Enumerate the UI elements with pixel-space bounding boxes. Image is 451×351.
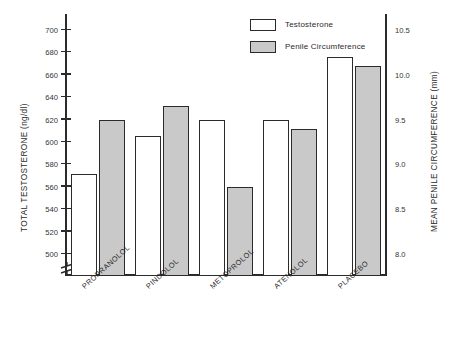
y-axis-left-line [65,14,67,276]
y-tick-label-left: 580 [45,160,58,169]
y-tick-label-left: 560 [45,182,58,191]
y-tick-left [61,230,71,231]
y-tick-label-right: 8.5 [395,205,406,214]
y-tick-label-left: 680 [45,48,58,57]
y-tick-label-left: 600 [45,138,58,147]
y-tick-left [61,118,71,119]
y-tick-left [61,73,71,74]
y-tick-label-right: 10.0 [395,70,410,79]
bar-penile-circumference [355,66,381,276]
y-tick-left [61,96,71,97]
y-axis-right-line [385,14,387,276]
y-tick-label-right: 9.5 [395,115,406,124]
y-tick-label-left: 640 [45,93,58,102]
y-tick-label-left: 700 [45,26,58,35]
y-tick-label-left: 500 [45,250,58,259]
y-tick-label-right: 9.0 [395,160,406,169]
y-tick-label-right: 10.5 [395,26,410,35]
bar-testosterone [71,174,97,276]
y-tick-left [61,208,71,209]
y-tick-left [61,51,71,52]
bar-testosterone [199,120,225,276]
bar-penile-circumference [291,129,317,276]
y-tick-left [61,141,71,142]
chart-figure: TOTAL TESTOSTERONE (ng/dl) MEAN PENILE C… [0,0,451,351]
y-tick-label-left: 520 [45,227,58,236]
y-tick-label-left: 620 [45,115,58,124]
y-tick-label-left: 540 [45,205,58,214]
y-tick-left [61,29,71,30]
y-tick-label-right: 8.0 [395,250,406,259]
y-axis-title-right: MEAN PENILE CIRCUMFERENCE (mm) [430,71,439,232]
y-tick-label-left: 660 [45,70,58,79]
y-axis-title-left: TOTAL TESTOSTERONE (ng/dl) [20,103,29,232]
bar-testosterone [327,57,353,276]
bar-testosterone [135,136,161,276]
y-tick-left [61,253,71,254]
y-tick-left [61,185,71,186]
bar-testosterone [263,120,289,276]
y-tick-left [61,163,71,164]
bar-penile-circumference [163,106,189,276]
plot-area: 500520540560580600620640660680700 8.08.5… [66,14,386,276]
